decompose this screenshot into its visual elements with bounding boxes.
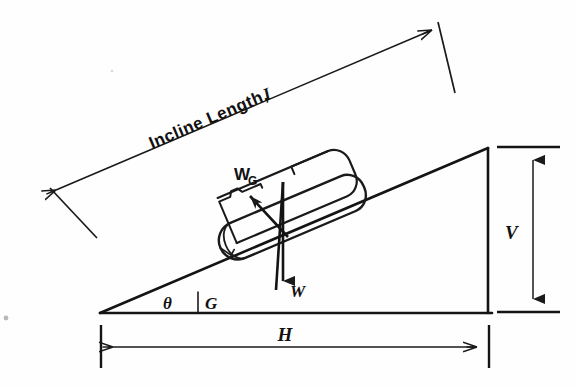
- drum-notch-bracket-left: [217, 179, 278, 243]
- ground-point-label: G: [205, 294, 218, 313]
- incline-length-label: Incline Length,: [146, 85, 271, 152]
- scan-artifact-dot: [4, 316, 9, 321]
- incline-dim-extension-left: [50, 188, 97, 238]
- horizontal-run-label: H: [277, 324, 294, 345]
- incline-length-dimension: [50, 22, 455, 238]
- figure-root: θ G W: [0, 0, 576, 387]
- drum-notch-bracket-right: [291, 151, 331, 174]
- incline-dim-extension-right: [438, 22, 455, 93]
- incline-diagram: θ G W: [0, 0, 576, 387]
- drum-group: [202, 143, 372, 266]
- weight-label: W: [290, 282, 307, 301]
- vertical-rise-label: V: [505, 222, 519, 243]
- incline-length-label-group: Incline Length, I: [146, 84, 275, 153]
- horizontal-dimension: [101, 325, 489, 368]
- weight-component-label-group: W G: [234, 165, 257, 188]
- drum-upper-shell: [218, 145, 362, 243]
- scan-artifact-dot-2: [111, 70, 114, 73]
- weight-component-subscript: G: [248, 174, 257, 188]
- angle-label: θ: [163, 294, 172, 313]
